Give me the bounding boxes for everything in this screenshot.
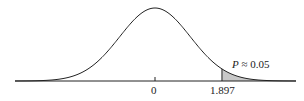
p-symbol: P	[232, 58, 239, 70]
p-value-annotation: P ≈ 0.05	[232, 59, 270, 70]
tick-label-zero: 0	[151, 85, 157, 96]
tick-label-critical: 1.897	[210, 85, 235, 96]
p-value-text: ≈ 0.05	[239, 58, 270, 70]
density-curve	[15, 8, 296, 81]
